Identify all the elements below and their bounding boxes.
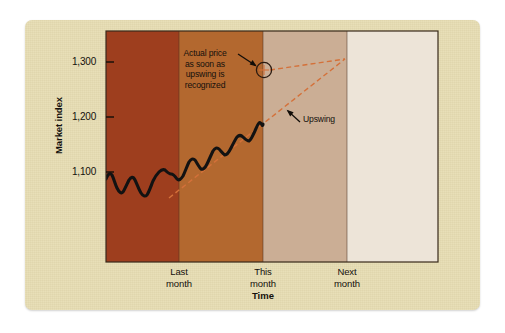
y-tick-label-1300: 1,300: [50, 56, 96, 67]
x-tick-last-month-line1: Last: [139, 266, 219, 278]
x-tick-label-this-month: This month: [223, 266, 303, 289]
x-tick-label-last-month: Last month: [139, 266, 219, 289]
chart-figure: Market index 1,300 1,200 1,100 Last mont…: [0, 0, 505, 333]
plot-frame: [106, 31, 438, 262]
actual-price-annotation-line2: as soon as: [170, 59, 240, 70]
x-axis-title: Time: [203, 290, 323, 301]
actual-price-annotation-line3: upswing is: [170, 69, 240, 80]
y-tick-label-1200: 1,200: [50, 111, 96, 122]
x-tick-next-month-line2: month: [307, 278, 387, 290]
x-tick-this-month-line2: month: [223, 278, 303, 290]
y-tick-label-1100: 1,100: [50, 166, 96, 177]
x-tick-last-month-line2: month: [139, 278, 219, 290]
y-axis-ticks: [106, 62, 114, 172]
x-tick-this-month-line1: This: [223, 266, 303, 278]
plot-wrapper: Market index 1,300 1,200 1,100 Last mont…: [0, 0, 505, 333]
upswing-arrow: [287, 110, 300, 122]
x-tick-label-next-month: Next month: [307, 266, 387, 289]
actual-price-annotation-line1: Actual price: [170, 48, 240, 59]
actual-price-arrow: [238, 54, 257, 66]
upswing-annotation: Upswing: [303, 114, 363, 125]
x-tick-next-month-line1: Next: [307, 266, 387, 278]
actual-price-annotation-line4: recognized: [170, 80, 240, 91]
actual-price-annotation: Actual price as soon as upswing is recog…: [170, 48, 240, 90]
